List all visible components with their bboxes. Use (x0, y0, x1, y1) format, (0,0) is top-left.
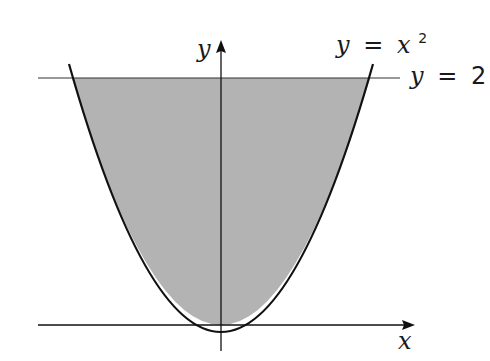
line-label-rhs: 2 (471, 62, 486, 90)
line-label: y = 2 (409, 62, 486, 90)
region-diagram: y x y = x 2 y = 2 (0, 0, 490, 361)
parabola-label-eq: = (363, 31, 383, 59)
parabola-label-rhs: x (397, 31, 411, 59)
y-axis-label: y (196, 35, 211, 63)
line-label-eq: = (437, 62, 457, 90)
diagram-svg: y x y = x 2 y = 2 (0, 0, 490, 361)
x-axis-label: x (398, 327, 412, 355)
parabola-label-lhs: y (335, 31, 350, 59)
line-label-lhs: y (409, 62, 424, 90)
parabola-label-exp: 2 (418, 30, 427, 46)
parabola-label: y = x 2 (335, 30, 427, 59)
